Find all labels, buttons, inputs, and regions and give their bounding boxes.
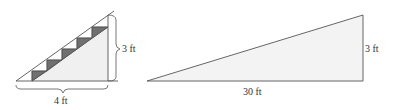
diagram-canvas: 3 ft 4 ft 3 ft 30 ft bbox=[0, 0, 393, 110]
ramp-base-label: 30 ft bbox=[243, 86, 262, 97]
ramp-height-label: 3 ft bbox=[365, 43, 379, 54]
stairs-height-label: 3 ft bbox=[122, 43, 136, 54]
stairs-figure: 3 ft 4 ft bbox=[16, 11, 136, 106]
stairs-width-label: 4 ft bbox=[54, 95, 68, 106]
height-brace bbox=[108, 15, 120, 81]
ramp-figure: 3 ft 30 ft bbox=[147, 15, 379, 97]
ramp-triangle bbox=[147, 15, 363, 81]
width-brace bbox=[16, 85, 108, 93]
